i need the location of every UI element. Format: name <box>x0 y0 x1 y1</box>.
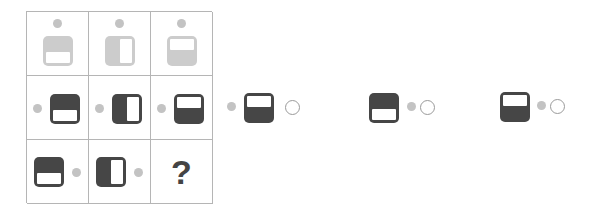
dot-icon <box>72 168 81 177</box>
dot-icon <box>134 168 143 177</box>
grid-cell-r1c2 <box>89 12 151 76</box>
dot-icon <box>115 19 124 28</box>
dot-icon <box>157 104 166 113</box>
radio-button-option-1[interactable] <box>285 100 300 115</box>
grid-cell-r2c1 <box>27 76 89 140</box>
square-window-bottom-icon <box>369 93 399 123</box>
grid-cell-r1c3 <box>151 12 213 76</box>
answer-option-3[interactable] <box>495 88 575 128</box>
dot-icon <box>407 102 416 111</box>
dot-icon <box>33 104 42 113</box>
square-window-top-icon <box>174 94 204 124</box>
dot-icon <box>95 104 104 113</box>
puzzle-grid: ? <box>26 11 212 203</box>
answer-option-1[interactable] <box>222 88 312 128</box>
dot-icon <box>53 19 62 28</box>
grid-cell-r3c3-missing: ? <box>151 140 213 204</box>
dot-icon <box>537 101 546 110</box>
radio-button-option-2[interactable] <box>420 100 435 115</box>
square-window-right-icon <box>96 157 126 187</box>
square-window-bottom-icon <box>50 94 80 124</box>
radio-button-option-3[interactable] <box>550 99 565 114</box>
square-window-top-icon <box>500 92 530 122</box>
grid-cell-r2c2 <box>89 76 151 140</box>
square-window-top-icon <box>244 93 274 123</box>
question-mark: ? <box>171 155 192 189</box>
dot-icon <box>177 19 186 28</box>
grid-cell-r3c1 <box>27 140 89 204</box>
square-window-bottom-icon <box>43 36 73 66</box>
square-window-right-icon <box>105 36 135 66</box>
square-window-bottom-icon <box>34 157 64 187</box>
grid-cell-r2c3 <box>151 76 213 140</box>
answer-option-2[interactable] <box>364 88 444 128</box>
grid-cell-r3c2 <box>89 140 151 204</box>
square-window-right-icon <box>112 94 142 124</box>
grid-cell-r1c1 <box>27 12 89 76</box>
dot-icon <box>227 102 236 111</box>
square-window-top-icon <box>167 36 197 66</box>
